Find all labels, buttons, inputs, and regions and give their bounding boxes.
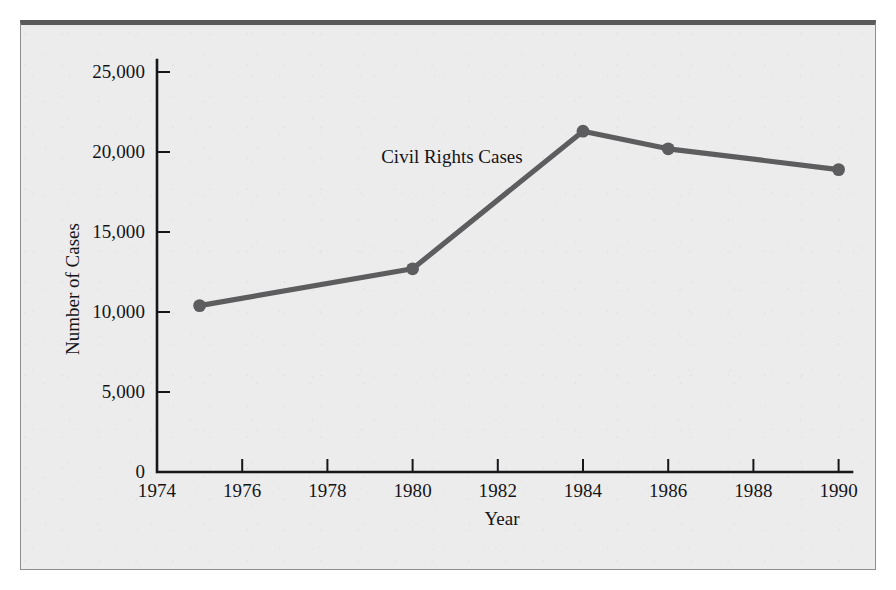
x-axis-tick-label: 1986 xyxy=(649,480,687,502)
y-axis-tick-label: 10,000 xyxy=(92,301,145,323)
series-annotation-label: Civil Rights Cases xyxy=(381,146,522,168)
x-axis-title: Year xyxy=(485,508,520,530)
x-axis-tick-label: 1980 xyxy=(393,480,431,502)
x-axis-tick-label: 1988 xyxy=(734,480,772,502)
y-axis-tick-label: 15,000 xyxy=(92,221,145,243)
y-axis-title: Number of Cases xyxy=(62,223,84,355)
x-axis-tick-label: 1990 xyxy=(819,480,857,502)
chart-page: 05,00010,00015,00020,00025,000 197419761… xyxy=(0,0,896,590)
x-axis-tick-label: 1974 xyxy=(138,480,176,502)
x-axis-tick-label: 1982 xyxy=(479,480,517,502)
x-axis-tick-label: 1976 xyxy=(223,480,261,502)
y-axis-tick-label: 5,000 xyxy=(102,381,145,403)
y-axis-tick-label: 25,000 xyxy=(92,61,145,83)
x-axis-tick-label: 1984 xyxy=(564,480,602,502)
y-axis-tick-label: 20,000 xyxy=(92,141,145,163)
x-axis-tick-label: 1978 xyxy=(308,480,346,502)
